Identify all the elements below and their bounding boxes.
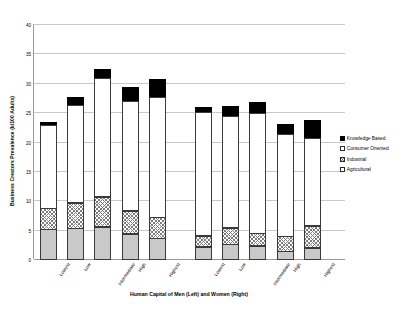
bar-segment-knowledge <box>222 106 239 117</box>
x-axis-tick-label: Highest <box>167 262 180 278</box>
bar-segment-industrial <box>94 197 111 228</box>
legend-item: Agricultural <box>340 165 416 176</box>
chart-legend: Knowledge BasedConsumer OrientedIndustri… <box>340 133 416 175</box>
x-axis-tick-label: Highest <box>322 262 335 278</box>
x-axis-tick-label: Low <box>238 262 247 272</box>
legend-item: Consumer Oriented <box>340 144 416 155</box>
bar[interactable] <box>249 102 266 259</box>
y-gridline: 30 <box>34 83 345 84</box>
chart-figure: Business Creators Prevalence (k/100 Adul… <box>0 0 417 311</box>
bar[interactable] <box>277 124 294 259</box>
bar-segment-knowledge <box>249 102 266 114</box>
bar-segment-industrial <box>149 217 166 239</box>
bar[interactable] <box>195 107 212 259</box>
legend-swatch-consumer <box>340 146 345 151</box>
x-axis-tick-label: Lowest <box>213 262 226 277</box>
bar-segment-agricultural <box>94 227 111 260</box>
bar-segment-agricultural <box>149 238 166 259</box>
legend-item: Industrial <box>340 154 416 165</box>
bar-segment-industrial <box>304 226 321 249</box>
x-axis-tick-label: High <box>292 262 302 273</box>
bar-segment-consumer <box>277 134 294 236</box>
bar-segment-agricultural <box>67 228 84 259</box>
bar-segment-industrial <box>122 211 139 235</box>
bar-segment-industrial <box>249 233 266 246</box>
bar[interactable] <box>222 106 239 259</box>
bar-segment-agricultural <box>277 251 294 259</box>
y-gridline: 35 <box>34 53 345 54</box>
y-axis-tick-label: 0 <box>28 258 31 263</box>
x-axis-title: Human Capital of Men (Left) and Women (R… <box>33 291 345 297</box>
bar-segment-agricultural <box>122 234 139 260</box>
bar-segment-agricultural <box>304 248 321 260</box>
bar-segment-consumer <box>94 78 111 198</box>
legend-item: Knowledge Based <box>340 133 416 144</box>
y-axis-tick-label: 5 <box>28 228 31 233</box>
bar[interactable] <box>94 69 111 259</box>
plot-area: 0510152025303540 <box>33 24 345 259</box>
legend-swatch-knowledge <box>340 136 345 141</box>
legend-label: Knowledge Based <box>347 136 386 141</box>
legend-label: Consumer Oriented <box>347 146 389 151</box>
legend-swatch-industrial <box>340 157 345 162</box>
bar-segment-consumer <box>222 116 239 228</box>
x-axis-tick-label: Low <box>83 262 92 272</box>
bar-segment-consumer <box>149 97 166 217</box>
bar-segment-agricultural <box>249 246 266 260</box>
legend-label: Agricultural <box>347 167 371 172</box>
y-axis-title: Business Creators Prevalence (k/100 Adul… <box>9 76 15 226</box>
x-axis-tick-label: Intermediate <box>117 262 136 286</box>
bar-segment-consumer <box>40 125 57 208</box>
legend-swatch-agricultural <box>340 167 345 172</box>
bar[interactable] <box>40 122 57 259</box>
bar-segment-agricultural <box>40 229 57 260</box>
y-axis-tick-label: 25 <box>26 111 31 116</box>
y-axis-tick-label: 35 <box>26 52 31 57</box>
y-axis-tick-label: 20 <box>26 140 31 145</box>
bar-segment-industrial <box>277 236 294 252</box>
bar-segment-agricultural <box>222 244 239 259</box>
bar[interactable] <box>122 87 139 259</box>
y-gridline: 40 <box>34 24 345 25</box>
y-axis-tick-label: 30 <box>26 81 31 86</box>
bar-segment-knowledge <box>149 79 166 98</box>
bar[interactable] <box>304 120 321 259</box>
bar-segment-knowledge <box>304 120 321 139</box>
x-axis-tick-label: Lowest <box>58 262 71 277</box>
bar-segment-consumer <box>122 101 139 211</box>
bar[interactable] <box>67 97 84 259</box>
bar-segment-consumer <box>304 138 321 226</box>
bar-segment-consumer <box>195 112 212 237</box>
y-axis-tick-label: 15 <box>26 169 31 174</box>
bar-segment-industrial <box>67 203 84 229</box>
bar-segment-industrial <box>195 236 212 248</box>
bar[interactable] <box>149 79 166 259</box>
bar-segment-industrial <box>222 228 239 245</box>
bar-segment-agricultural <box>195 247 212 260</box>
legend-label: Industrial <box>347 157 366 162</box>
x-axis-tick-label: Intermediate <box>272 262 291 286</box>
bar-segment-industrial <box>40 208 57 230</box>
bar-segment-knowledge <box>122 87 139 102</box>
y-axis-tick-label: 40 <box>26 23 31 28</box>
y-axis-tick-label: 10 <box>26 199 31 204</box>
x-axis-tick-label: High <box>137 262 147 273</box>
bar-segment-consumer <box>249 113 266 233</box>
bar-segment-knowledge <box>277 124 294 135</box>
bar-segment-consumer <box>67 105 84 203</box>
